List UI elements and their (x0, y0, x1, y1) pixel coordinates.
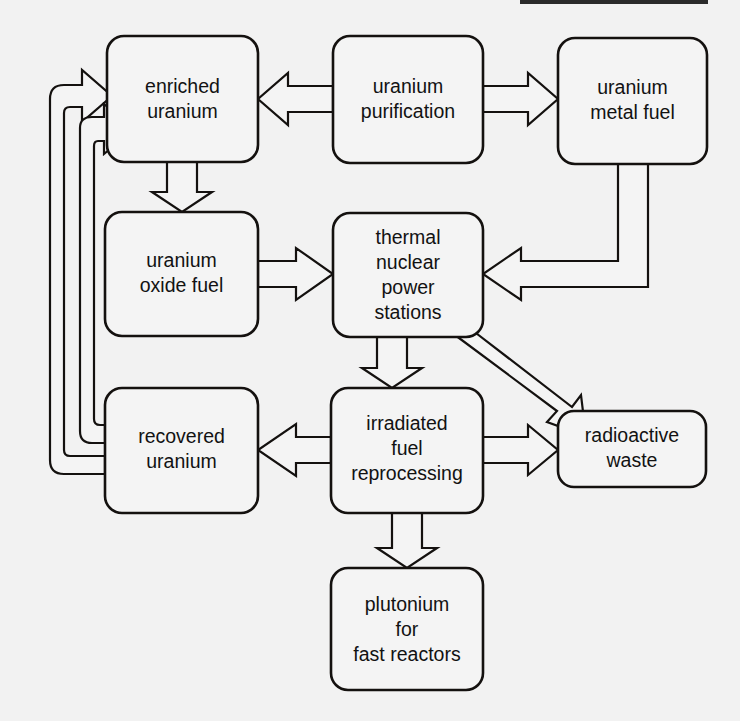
node-box-enriched-uranium[interactable] (107, 36, 258, 162)
edge-purification-to-uranium-metal-fuel (483, 73, 558, 125)
edge-irradiated-fuel-to-plutonium (377, 513, 437, 568)
node-label-enriched-uranium-line2: uranium (147, 100, 217, 122)
node-radioactive-waste[interactable]: radioactive waste (558, 411, 706, 487)
node-label-uranium-oxide-fuel-line2: oxide fuel (140, 274, 223, 296)
node-label-recovered-uranium-line2: uranium (146, 450, 216, 472)
edge-irradiated-fuel-to-recovered-uranium (258, 424, 331, 476)
node-label-plutonium-line2: for (396, 618, 419, 640)
edge-enriched-uranium-to-uranium-oxide-fuel (152, 162, 212, 212)
node-label-plutonium-line3: fast reactors (353, 643, 461, 665)
node-label-irradiated-fuel-line1: irradiated (366, 412, 447, 434)
edge-uranium-metal-fuel-to-thermal-stations (483, 164, 648, 300)
edge-purification-to-enriched-uranium (258, 73, 333, 125)
node-recovered-uranium[interactable]: recovered uranium (105, 388, 258, 513)
node-label-thermal-stations-line2: nuclear (376, 251, 440, 273)
node-label-uranium-purification-line1: uranium (373, 75, 443, 97)
node-plutonium-for-fast-reactors[interactable]: plutonium for fast reactors (331, 568, 483, 690)
node-label-plutonium-line1: plutonium (365, 593, 450, 615)
node-label-uranium-purification-line2: purification (361, 100, 455, 122)
node-uranium-oxide-fuel[interactable]: uranium oxide fuel (105, 212, 258, 336)
node-label-irradiated-fuel-line2: fuel (391, 437, 422, 459)
node-irradiated-fuel-reprocessing[interactable]: irradiated fuel reprocessing (331, 388, 483, 513)
node-label-thermal-stations-line1: thermal (375, 226, 440, 248)
node-label-uranium-metal-fuel-line2: metal fuel (590, 101, 675, 123)
edge-thermal-stations-to-irradiated-fuel (362, 337, 422, 388)
page-edge-bar (520, 0, 708, 4)
node-label-radioactive-waste-line1: radioactive (585, 424, 679, 446)
node-uranium-metal-fuel[interactable]: uranium metal fuel (558, 38, 707, 164)
flow-diagram: enriched uranium uranium purification ur… (0, 0, 740, 721)
node-label-thermal-stations-line3: power (381, 276, 435, 298)
node-label-irradiated-fuel-line3: reprocessing (351, 462, 463, 484)
edge-irradiated-fuel-to-radioactive-waste (483, 425, 558, 475)
node-label-uranium-metal-fuel-line1: uranium (597, 76, 667, 98)
node-enriched-uranium[interactable]: enriched uranium (107, 36, 258, 162)
node-label-uranium-oxide-fuel-line1: uranium (146, 249, 216, 271)
node-label-enriched-uranium-line1: enriched (145, 75, 220, 97)
node-label-recovered-uranium-line1: recovered (138, 425, 225, 447)
node-label-thermal-stations-line4: stations (374, 301, 441, 323)
node-uranium-purification[interactable]: uranium purification (333, 36, 483, 163)
edge-uranium-oxide-fuel-to-thermal-stations (258, 248, 333, 300)
node-thermal-nuclear-power-stations[interactable]: thermal nuclear power stations (333, 213, 483, 337)
node-label-radioactive-waste-line2: waste (606, 449, 658, 471)
flow-diagram-canvas: enriched uranium uranium purification ur… (0, 0, 740, 721)
